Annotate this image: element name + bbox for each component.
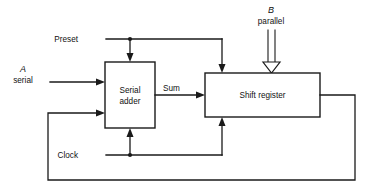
b-parallel-hollow-arrow [263,30,280,73]
clock-label: Clock [58,151,79,160]
a-serial-input-wire [50,79,105,86]
block-diagram: A serial B parallel Preset Clock Sum Ser… [0,0,377,191]
diagram-canvas: A serial B parallel Preset Clock Sum Ser… [0,0,377,191]
serial-adder-box [105,62,155,128]
sum-label: Sum [163,84,180,93]
shift-register-label: Shift register [240,91,286,100]
serial-adder-label-line2: adder [120,97,141,106]
b-input-symbol: B [268,5,274,15]
a-input-qualifier: serial [13,76,33,85]
preset-label: Preset [54,35,78,44]
serial-adder-label-line1: Serial [120,86,141,95]
b-input-qualifier: parallel [258,17,285,26]
a-input-symbol: A [19,64,26,74]
